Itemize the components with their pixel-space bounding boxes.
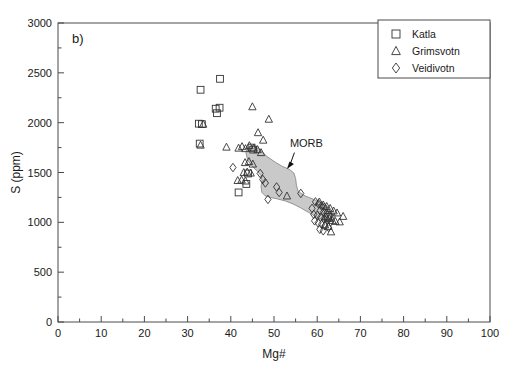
data-point-triangle (265, 115, 272, 122)
y-tick-label: 2000 (28, 117, 52, 129)
figure-container: 0102030405060708090100Mg#050010001500200… (0, 0, 514, 389)
x-tick-label: 40 (225, 327, 237, 339)
y-axis-title: S (ppm) (9, 151, 23, 194)
y-tick-label: 0 (46, 316, 52, 328)
legend-label-katla: Katla (412, 28, 436, 40)
data-point-triangle (199, 120, 206, 127)
x-tick-label: 90 (441, 327, 453, 339)
y-tick-label: 1000 (28, 216, 52, 228)
x-axis-title: Mg# (262, 347, 286, 361)
panel-label: b) (72, 31, 84, 46)
data-point-square (197, 86, 204, 93)
data-point-square (235, 189, 242, 196)
x-tick-label: 20 (138, 327, 150, 339)
data-point-triangle (260, 136, 267, 143)
data-point-square (217, 75, 224, 82)
x-tick-label: 10 (95, 327, 107, 339)
x-tick-label: 30 (181, 327, 193, 339)
y-tick-label: 2500 (28, 67, 52, 79)
data-point-diamond (230, 163, 236, 172)
morb-annotation-label: MORB (290, 137, 323, 149)
data-point-triangle (249, 103, 256, 110)
scatter-plot: 0102030405060708090100Mg#050010001500200… (0, 0, 514, 389)
morb-arrow-head (287, 162, 294, 170)
x-tick-label: 80 (397, 327, 409, 339)
data-points (195, 75, 346, 235)
x-tick-label: 50 (268, 327, 280, 339)
x-tick-label: 0 (55, 327, 61, 339)
data-point-triangle (254, 129, 261, 136)
data-point-triangle (223, 143, 230, 150)
y-tick-label: 3000 (28, 17, 52, 29)
x-tick-label: 70 (354, 327, 366, 339)
legend-label-grimsvotn: Grimsvotn (412, 45, 460, 57)
x-tick-label: 100 (481, 327, 499, 339)
legend-label-veidivotn: Veidivotn (412, 62, 455, 74)
x-tick-label: 60 (311, 327, 323, 339)
y-tick-label: 1500 (28, 167, 52, 179)
y-tick-label: 500 (34, 266, 52, 278)
